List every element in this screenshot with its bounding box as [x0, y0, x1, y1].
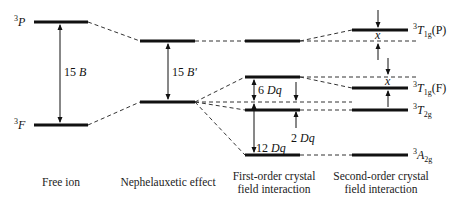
connector-dashed	[300, 77, 352, 88]
term-label-T2g: 3T2g	[413, 102, 432, 119]
x-label-lower: x	[384, 74, 391, 88]
term-label-T1gF: 3T1g(F)	[413, 80, 446, 97]
term-label-3F: 3F	[14, 117, 26, 132]
caption-second-order-line2: field interaction	[344, 183, 417, 195]
caption-free-ion: Free ion	[42, 176, 80, 188]
connector-dashed	[300, 30, 352, 41]
gap-label-2Dq: 2 Dq	[291, 131, 315, 145]
connector-dashed	[88, 102, 140, 125]
connector-dashed	[88, 22, 140, 41]
caption-nephelauxetic: Nephelauxetic effect	[120, 176, 216, 189]
connector-dashed	[195, 102, 245, 155]
term-label-A2g: 3A2g	[413, 147, 432, 164]
x-label-upper: x	[374, 28, 381, 42]
gap-label-6Dq: 6 Dq	[258, 83, 282, 97]
connector-dashed	[195, 77, 245, 102]
gap-label-15B: 15 B	[64, 65, 87, 79]
gap-label-15Bprime: 15 B'	[172, 65, 197, 79]
term-label-T1gP: 3T1g(P)	[413, 22, 446, 39]
connector-dashed	[195, 102, 245, 110]
caption-first-order-line2: field interaction	[237, 183, 310, 195]
gap-label-12Dq: 12 Dq	[256, 141, 286, 155]
energy-level-diagram: 3P 3F 15 B 15 B' 6 Dq 12 Dq 2 Dq	[0, 0, 463, 203]
caption-first-order-line1: First-order crystal	[233, 170, 316, 183]
caption-second-order-line1: Second-order crystal	[333, 170, 428, 183]
term-label-3P: 3P	[14, 14, 26, 29]
